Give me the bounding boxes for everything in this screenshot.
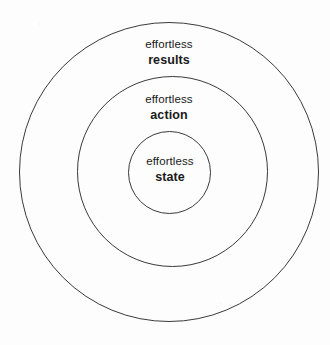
effortless-concentric-diagram: effortless results effortless action eff… <box>0 0 330 345</box>
middle-ring-label-term: action <box>89 108 249 123</box>
inner-ring-label: effortless state <box>90 155 250 184</box>
inner-ring-label-term: state <box>90 170 250 185</box>
middle-ring-label: effortless action <box>89 93 249 122</box>
outer-ring-label-prefix: effortless <box>89 38 249 52</box>
outer-ring-label-term: results <box>89 53 249 68</box>
outer-ring-label: effortless results <box>89 38 249 67</box>
middle-ring-label-prefix: effortless <box>89 93 249 107</box>
inner-ring-label-prefix: effortless <box>90 155 250 169</box>
